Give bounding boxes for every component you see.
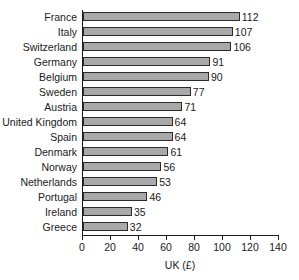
category-axis-labels: FranceItalySwitzerlandGermanyBelgiumSwed…: [0, 10, 80, 235]
bar-row: 77: [83, 85, 279, 100]
bar: [83, 192, 147, 201]
x-tick: [250, 236, 251, 240]
bar-value-label: 112: [240, 10, 259, 25]
bar: [83, 102, 182, 111]
category-label: Netherlands: [0, 175, 80, 190]
bar: [83, 87, 191, 96]
category-label: Denmark: [0, 145, 80, 160]
bar-row: 91: [83, 55, 279, 70]
bar-value-label: 71: [182, 100, 196, 115]
x-tick-label: 140: [263, 241, 293, 253]
bar: [83, 162, 161, 171]
x-tick-label: 120: [235, 241, 265, 253]
x-tick: [138, 236, 139, 240]
x-tick: [82, 236, 83, 240]
x-tick: [110, 236, 111, 240]
category-label: Belgium: [0, 70, 80, 85]
bar-row: 64: [83, 130, 279, 145]
bar-value-label: 35: [132, 205, 146, 220]
bar-value-label: 90: [209, 70, 223, 85]
bar-value-label: 32: [128, 220, 142, 235]
bar: [83, 72, 209, 81]
bar: [83, 57, 210, 66]
x-tick-label: 100: [207, 241, 237, 253]
bar-row: 32: [83, 220, 279, 235]
x-tick-label: 40: [123, 241, 153, 253]
category-label: Italy: [0, 25, 80, 40]
bar-value-label: 77: [191, 85, 205, 100]
category-label: France: [0, 10, 80, 25]
bar-value-label: 53: [157, 175, 171, 190]
bar: [83, 147, 168, 156]
bar-value-label: 61: [168, 145, 182, 160]
bar-row: 90: [83, 70, 279, 85]
category-label: Sweden: [0, 85, 80, 100]
bar-value-label: 91: [210, 55, 224, 70]
x-tick: [222, 236, 223, 240]
x-tick-label: 20: [95, 241, 125, 253]
x-tick-label: 60: [151, 241, 181, 253]
bar-row: 35: [83, 205, 279, 220]
category-label: Ireland: [0, 205, 80, 220]
category-label: Germany: [0, 55, 80, 70]
category-label: Spain: [0, 130, 80, 145]
x-tick-label: 0: [67, 241, 97, 253]
bar-value-label: 56: [161, 160, 175, 175]
bar-row: 71: [83, 100, 279, 115]
bar-value-label: 64: [173, 130, 187, 145]
bar-chart: FranceItalySwitzerlandGermanyBelgiumSwed…: [0, 0, 299, 280]
bar-value-label: 106: [231, 40, 251, 55]
bar: [83, 12, 240, 21]
bar: [83, 132, 173, 141]
bar: [83, 207, 132, 216]
category-label: Portugal: [0, 190, 80, 205]
bar: [83, 42, 231, 51]
category-label: Norway: [0, 160, 80, 175]
category-label: Greece: [0, 220, 80, 235]
bar: [83, 117, 173, 126]
bar-row: 53: [83, 175, 279, 190]
bar-row: 56: [83, 160, 279, 175]
x-tick: [166, 236, 167, 240]
bar-row: 64: [83, 115, 279, 130]
bar-value-label: 64: [173, 115, 187, 130]
category-label: Austria: [0, 100, 80, 115]
bar-row: 46: [83, 190, 279, 205]
bar-value-label: 46: [147, 190, 161, 205]
x-axis-title: UK (£): [82, 259, 278, 271]
category-label: Switzerland: [0, 40, 80, 55]
bar: [83, 27, 233, 36]
bar-row: 107: [83, 25, 279, 40]
x-tick: [278, 236, 279, 240]
bar-row: 106: [83, 40, 279, 55]
bar-row: 61: [83, 145, 279, 160]
bar: [83, 177, 157, 186]
plot-area: 112107106919077716464615653463532 020406…: [82, 10, 278, 235]
x-tick-label: 80: [179, 241, 209, 253]
bar-value-label: 107: [233, 25, 253, 40]
x-tick: [194, 236, 195, 240]
category-label: United Kingdom: [0, 115, 80, 130]
bar-row: 112: [83, 10, 279, 25]
bar: [83, 222, 128, 231]
